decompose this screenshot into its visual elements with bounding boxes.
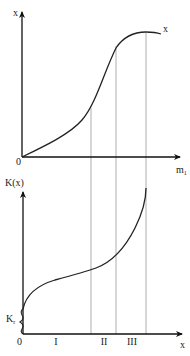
- bottom-origin-label: 0: [17, 336, 22, 347]
- bottom-x-axis-label: x: [180, 339, 185, 350]
- region-guide-lines: [91, 33, 146, 334]
- top-origin-label: 0: [16, 156, 21, 167]
- top-curve-label: x: [163, 23, 168, 34]
- bottom-y-axis-label: K(x): [5, 177, 24, 189]
- bottom-plot: [20, 188, 182, 334]
- diagram: x 0 x m1 K(x) Kr 0 I II III x: [0, 0, 190, 356]
- bottom-curve: [23, 188, 146, 309]
- threshold-label: Kr: [6, 313, 15, 325]
- top-curve: [22, 32, 161, 157]
- top-plot: [22, 12, 180, 157]
- region-label-1: I: [54, 336, 57, 347]
- top-x-axis-label: m1: [176, 164, 187, 176]
- region-label-2: II: [101, 336, 108, 347]
- top-y-axis-label: x: [13, 7, 18, 18]
- region-label-3: III: [127, 336, 137, 347]
